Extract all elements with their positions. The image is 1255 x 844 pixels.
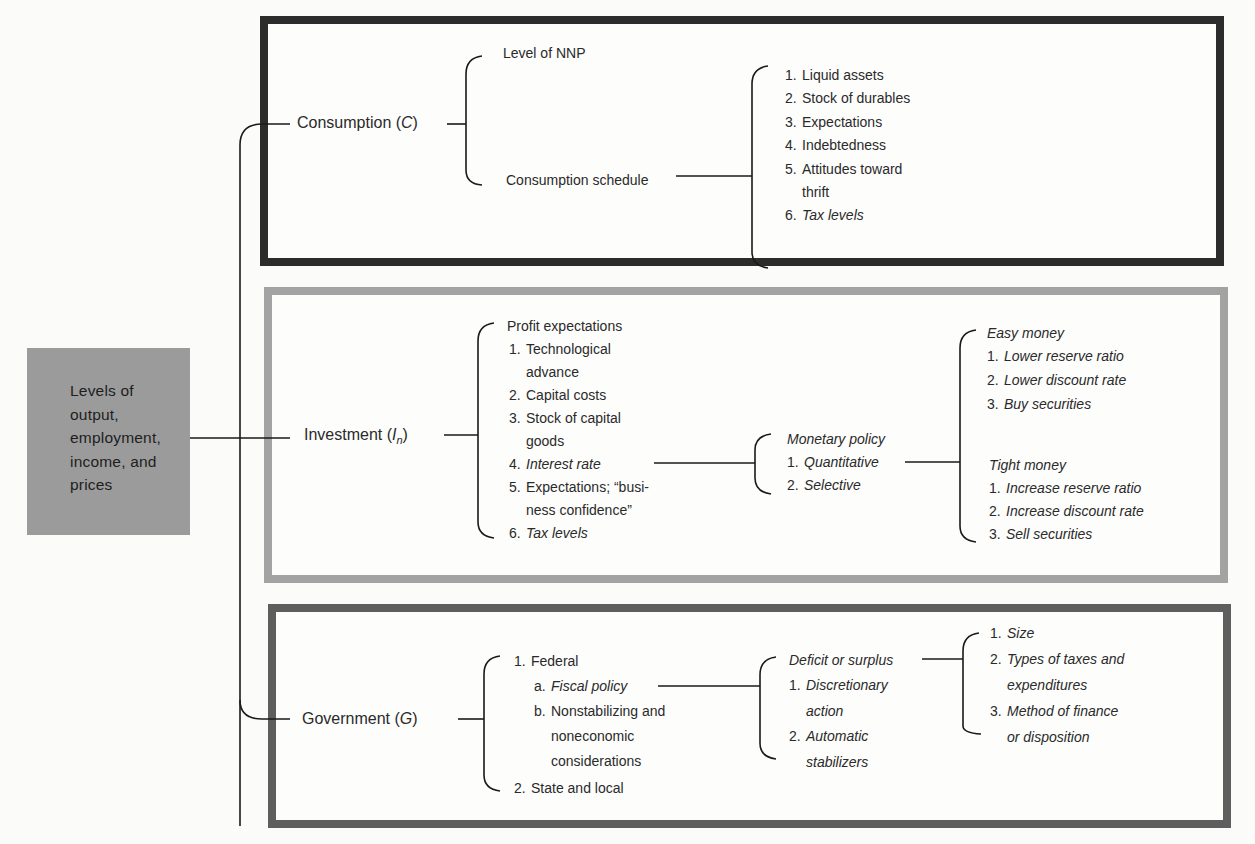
root-line: prices: [70, 473, 190, 497]
monetary-policy-item: 1.Quantitative: [787, 454, 879, 470]
consumption-determinant: thrift: [785, 184, 829, 200]
government-level: considerations: [534, 753, 641, 769]
tight-money-item: 1.Increase reserve ratio: [989, 480, 1141, 496]
easy-money-heading: Easy money: [987, 325, 1064, 341]
deficit-item: 1.Discretionary: [789, 677, 888, 693]
government-level: noneconomic: [534, 728, 634, 744]
root-line: output,: [70, 403, 190, 427]
investment-label-text: Investment (: [304, 426, 392, 443]
deficit-item: stabilizers: [789, 754, 868, 770]
government-label-text: Government (: [302, 710, 400, 727]
investment-determinant: 3.Stock of capital: [509, 410, 621, 426]
root-line: Levels of: [70, 379, 190, 403]
government-label: Government (G): [302, 710, 418, 728]
investment-determinant: 5.Expectations; “busi-: [509, 479, 649, 495]
deficit-aspect: 3.Method of finance: [990, 703, 1118, 719]
tight-money-item: 2.Increase discount rate: [989, 503, 1144, 519]
government-label-end: ): [412, 710, 417, 727]
profit-expectations: Profit expectations: [507, 318, 622, 334]
investment-determinant: 1.Technological: [509, 341, 611, 357]
investment-determinant: 4.Interest rate: [509, 456, 601, 472]
consumption-determinant: 6.Tax levels: [785, 207, 864, 223]
government-level: a.Fiscal policy: [534, 678, 627, 694]
monetary-policy-item: 2.Selective: [787, 477, 861, 493]
root-box: Levels of output, employment, income, an…: [27, 348, 190, 535]
root-line: employment,: [70, 426, 190, 450]
easy-money-item: 1.Lower reserve ratio: [987, 348, 1124, 364]
root-line: income, and: [70, 450, 190, 474]
investment-label: Investment (In): [304, 426, 408, 449]
consumption-determinant: 2.Stock of durables: [785, 90, 910, 106]
consumption-label: Consumption (C): [297, 114, 418, 132]
consumption-determinant: 5.Attitudes toward: [785, 161, 902, 177]
investment-determinant: goods: [509, 433, 564, 449]
deficit-aspect: 1.Size: [990, 625, 1034, 641]
consumption-determinant: 3.Expectations: [785, 114, 882, 130]
deficit-item: 2.Automatic: [789, 728, 868, 744]
consumption-determinant: 4.Indebtedness: [785, 137, 886, 153]
tight-money-item: 3.Sell securities: [989, 526, 1092, 542]
easy-money-item: 2.Lower discount rate: [987, 372, 1126, 388]
government-symbol: G: [400, 710, 412, 727]
deficit-aspect: 2.Types of taxes and: [990, 651, 1124, 667]
consumption-label-text: Consumption (: [297, 114, 401, 131]
consumption-symbol: C: [401, 114, 413, 131]
consumption-frame: [260, 16, 1224, 266]
government-level: 2.State and local: [514, 780, 624, 796]
government-level: b.Nonstabilizing and: [534, 703, 665, 719]
tight-money-heading: Tight money: [989, 457, 1066, 473]
level-of-nnp: Level of NNP: [503, 45, 585, 61]
investment-determinant: 2.Capital costs: [509, 387, 606, 403]
consumption-determinant: 1.Liquid assets: [785, 67, 884, 83]
government-level: 1.Federal: [514, 653, 578, 669]
easy-money-item: 3.Buy securities: [987, 396, 1091, 412]
deficit-item: action: [789, 703, 843, 719]
investment-label-end: ): [403, 426, 408, 443]
consumption-label-end: ): [413, 114, 418, 131]
deficit-surplus-heading: Deficit or surplus: [789, 652, 893, 668]
investment-determinant: 6.Tax levels: [509, 525, 588, 541]
monetary-policy-heading: Monetary policy: [787, 431, 885, 447]
investment-determinant: ness confidence”: [509, 502, 632, 518]
consumption-schedule: Consumption schedule: [506, 172, 648, 188]
deficit-aspect: or disposition: [990, 729, 1090, 745]
deficit-aspect: expenditures: [990, 677, 1087, 693]
investment-determinant: advance: [509, 364, 579, 380]
